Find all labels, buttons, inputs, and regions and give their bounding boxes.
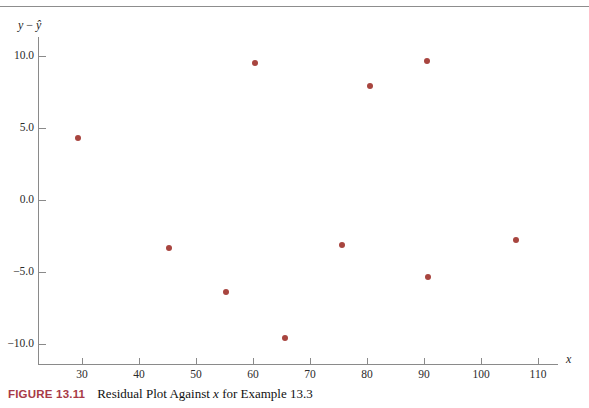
- y-tick-mark: [39, 272, 46, 273]
- figure-caption-text: Residual Plot Against x for Example 13.3: [97, 386, 313, 401]
- x-tick-mark: [424, 358, 425, 364]
- x-axis-title: x: [566, 352, 571, 367]
- x-tick-label: 70: [290, 368, 330, 380]
- figure-caption: FIGURE 13.11Residual Plot Against x for …: [8, 386, 583, 402]
- x-tick-mark: [310, 358, 311, 364]
- x-tick-label: 90: [404, 368, 444, 380]
- scatter-point: [513, 237, 519, 243]
- scatter-point: [75, 135, 81, 141]
- x-tick-label: 40: [119, 368, 159, 380]
- y-tick-label: −10.0: [0, 337, 34, 349]
- x-tick-label: 50: [176, 368, 216, 380]
- y-tick-label: 5.0: [0, 121, 34, 133]
- scatter-point: [425, 274, 431, 280]
- y-tick-label: 0.0: [0, 193, 34, 205]
- y-tick-mark: [39, 128, 46, 129]
- scatter-point: [424, 58, 430, 64]
- x-tick-label: 30: [62, 368, 102, 380]
- x-axis-line: [38, 364, 558, 365]
- scatter-point: [223, 289, 229, 295]
- residual-scatter-plot: y − ŷ x 10.05.00.0−5.0−10.0 304050607080…: [0, 0, 589, 372]
- scatter-point: [367, 83, 373, 89]
- y-tick-mark: [39, 56, 46, 57]
- x-tick-mark: [367, 358, 368, 364]
- figure-number-label: FIGURE 13.11: [8, 388, 85, 400]
- x-tick-mark: [538, 358, 539, 364]
- x-tick-label: 80: [347, 368, 387, 380]
- scatter-point: [339, 242, 345, 248]
- figure-page: y − ŷ x 10.05.00.0−5.0−10.0 304050607080…: [0, 0, 589, 408]
- x-tick-label: 110: [518, 368, 558, 380]
- y-tick-label: 10.0: [0, 49, 34, 61]
- scatter-point: [166, 245, 172, 251]
- x-tick-mark: [481, 358, 482, 364]
- y-tick-mark: [39, 200, 46, 201]
- x-tick-mark: [139, 358, 140, 364]
- x-tick-label: 100: [461, 368, 501, 380]
- y-tick-label: −5.0: [0, 265, 34, 277]
- x-tick-mark: [196, 358, 197, 364]
- x-tick-mark: [253, 358, 254, 364]
- y-axis-title: y − ŷ: [18, 18, 41, 33]
- x-tick-label: 60: [233, 368, 273, 380]
- scatter-point: [282, 335, 288, 341]
- x-tick-mark: [82, 358, 83, 364]
- scatter-point: [252, 60, 258, 66]
- y-tick-mark: [39, 344, 46, 345]
